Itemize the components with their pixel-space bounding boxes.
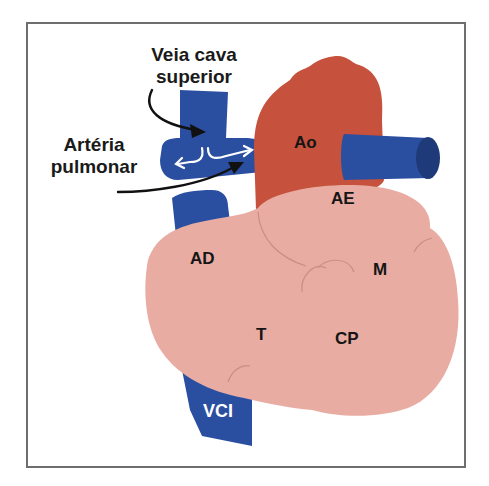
callout-pa-line2: pulmonar [44, 156, 144, 178]
label-right-atrium: AD [190, 250, 215, 267]
label-left-atrium: AE [331, 190, 355, 207]
superior-vena-cava-shape [160, 90, 262, 180]
callout-superior-vena-cava: Veia cava superior [134, 44, 254, 88]
callout-svc-line2: superior [134, 66, 254, 88]
label-aorta: Ao [294, 134, 317, 151]
label-cp: CP [335, 330, 359, 347]
label-tricuspid: T [256, 326, 266, 343]
label-inferior-vena-cava: VCI [203, 402, 233, 420]
pulmonary-artery-branch-shape [341, 134, 440, 180]
heart-diagram: Veia cava superior Artéria pulmonar Ao A… [0, 0, 489, 486]
callout-pulmonary-artery: Artéria pulmonar [44, 134, 144, 178]
callout-svc-line1: Veia cava [134, 44, 254, 66]
label-mitral: M [373, 261, 387, 278]
callout-pa-line1: Artéria [44, 134, 144, 156]
